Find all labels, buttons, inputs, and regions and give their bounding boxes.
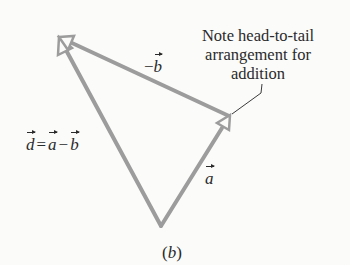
panel-caption: (b) bbox=[162, 243, 182, 263]
note-line-1: Note head-to-tail bbox=[178, 26, 338, 45]
vector-symbol-a: a bbox=[205, 170, 214, 187]
vector-symbol-a: a bbox=[48, 136, 57, 153]
vector-symbol-b: b bbox=[70, 136, 79, 153]
callout-leader-line bbox=[232, 84, 262, 114]
note-line-2: arrangement for bbox=[178, 45, 338, 64]
equals-sign: = bbox=[37, 135, 47, 154]
vector-symbol-b: b bbox=[154, 58, 163, 75]
vector-a-arrow bbox=[161, 115, 230, 226]
label-a: a bbox=[205, 170, 214, 187]
minus-sign: − bbox=[59, 135, 69, 154]
vector-symbol-d: d bbox=[26, 136, 35, 153]
head-to-tail-note: Note head-to-tail arrangement for additi… bbox=[178, 26, 338, 83]
minus-sign: − bbox=[144, 57, 154, 76]
label-neg-b: −b bbox=[144, 58, 162, 75]
note-line-3: addition bbox=[178, 64, 338, 83]
label-d-equation: d=a−b bbox=[26, 136, 79, 153]
panel-letter: b bbox=[168, 243, 177, 262]
